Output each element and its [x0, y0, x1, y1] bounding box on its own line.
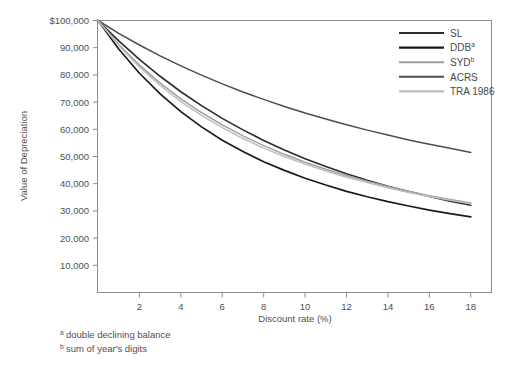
legend-label-sl: SL: [450, 28, 463, 39]
x-tick-label: 4: [178, 301, 183, 312]
depreciation-chart: 10,00020,00030,00040,00050,00060,00070,0…: [0, 0, 522, 368]
chart-canvas: 10,00020,00030,00040,00050,00060,00070,0…: [0, 0, 522, 368]
x-tick-label: 2: [137, 301, 142, 312]
x-tick-label: 6: [220, 301, 225, 312]
y-tick-label: 70,000: [60, 97, 89, 108]
x-tick-label: 10: [300, 301, 311, 312]
legend-label-tra-1986: TRA 1986: [450, 86, 495, 97]
y-axis-tick-labels: 10,00020,00030,00040,00050,00060,00070,0…: [49, 15, 89, 271]
x-tick-label: 16: [424, 301, 435, 312]
series-lines: [98, 21, 471, 217]
chart-footnotes: adouble declining balancebsum of year's …: [60, 329, 171, 355]
footnote-text: sum of year's digits: [66, 343, 147, 354]
x-axis-ticks: [139, 293, 470, 298]
footnote-marker: b: [60, 343, 64, 350]
x-tick-label: 8: [261, 301, 266, 312]
x-tick-label: 18: [466, 301, 477, 312]
x-axis-title: Discount rate (%): [258, 313, 331, 324]
y-axis-title: Value of Depreciation: [18, 111, 29, 201]
footnote-text: double declining balance: [66, 329, 171, 340]
y-tick-label: 10,000: [60, 260, 89, 271]
series-line-ddb: [98, 21, 471, 217]
legend-superscript: a: [471, 41, 475, 48]
legend-label-ddb: DDBa: [450, 41, 475, 53]
y-tick-label: $100,000: [49, 15, 89, 26]
chart-legend: SLDDBaSYDbACRSTRA 1986: [399, 28, 495, 97]
x-axis-tick-labels: 24681012141618: [137, 301, 476, 312]
y-tick-label: 50,000: [60, 151, 89, 162]
legend-label-syd: SYDb: [450, 56, 475, 68]
x-tick-label: 14: [383, 301, 394, 312]
y-tick-label: 30,000: [60, 205, 89, 216]
y-tick-label: 80,000: [60, 69, 89, 80]
y-tick-label: 60,000: [60, 124, 89, 135]
y-tick-label: 90,000: [60, 42, 89, 53]
y-tick-label: 40,000: [60, 178, 89, 189]
legend-superscript: b: [471, 56, 475, 63]
legend-label-acrs: ACRS: [450, 72, 478, 83]
footnote-marker: a: [60, 329, 64, 336]
series-line-acrs: [98, 21, 471, 153]
x-tick-label: 12: [341, 301, 352, 312]
y-tick-label: 20,000: [60, 233, 89, 244]
